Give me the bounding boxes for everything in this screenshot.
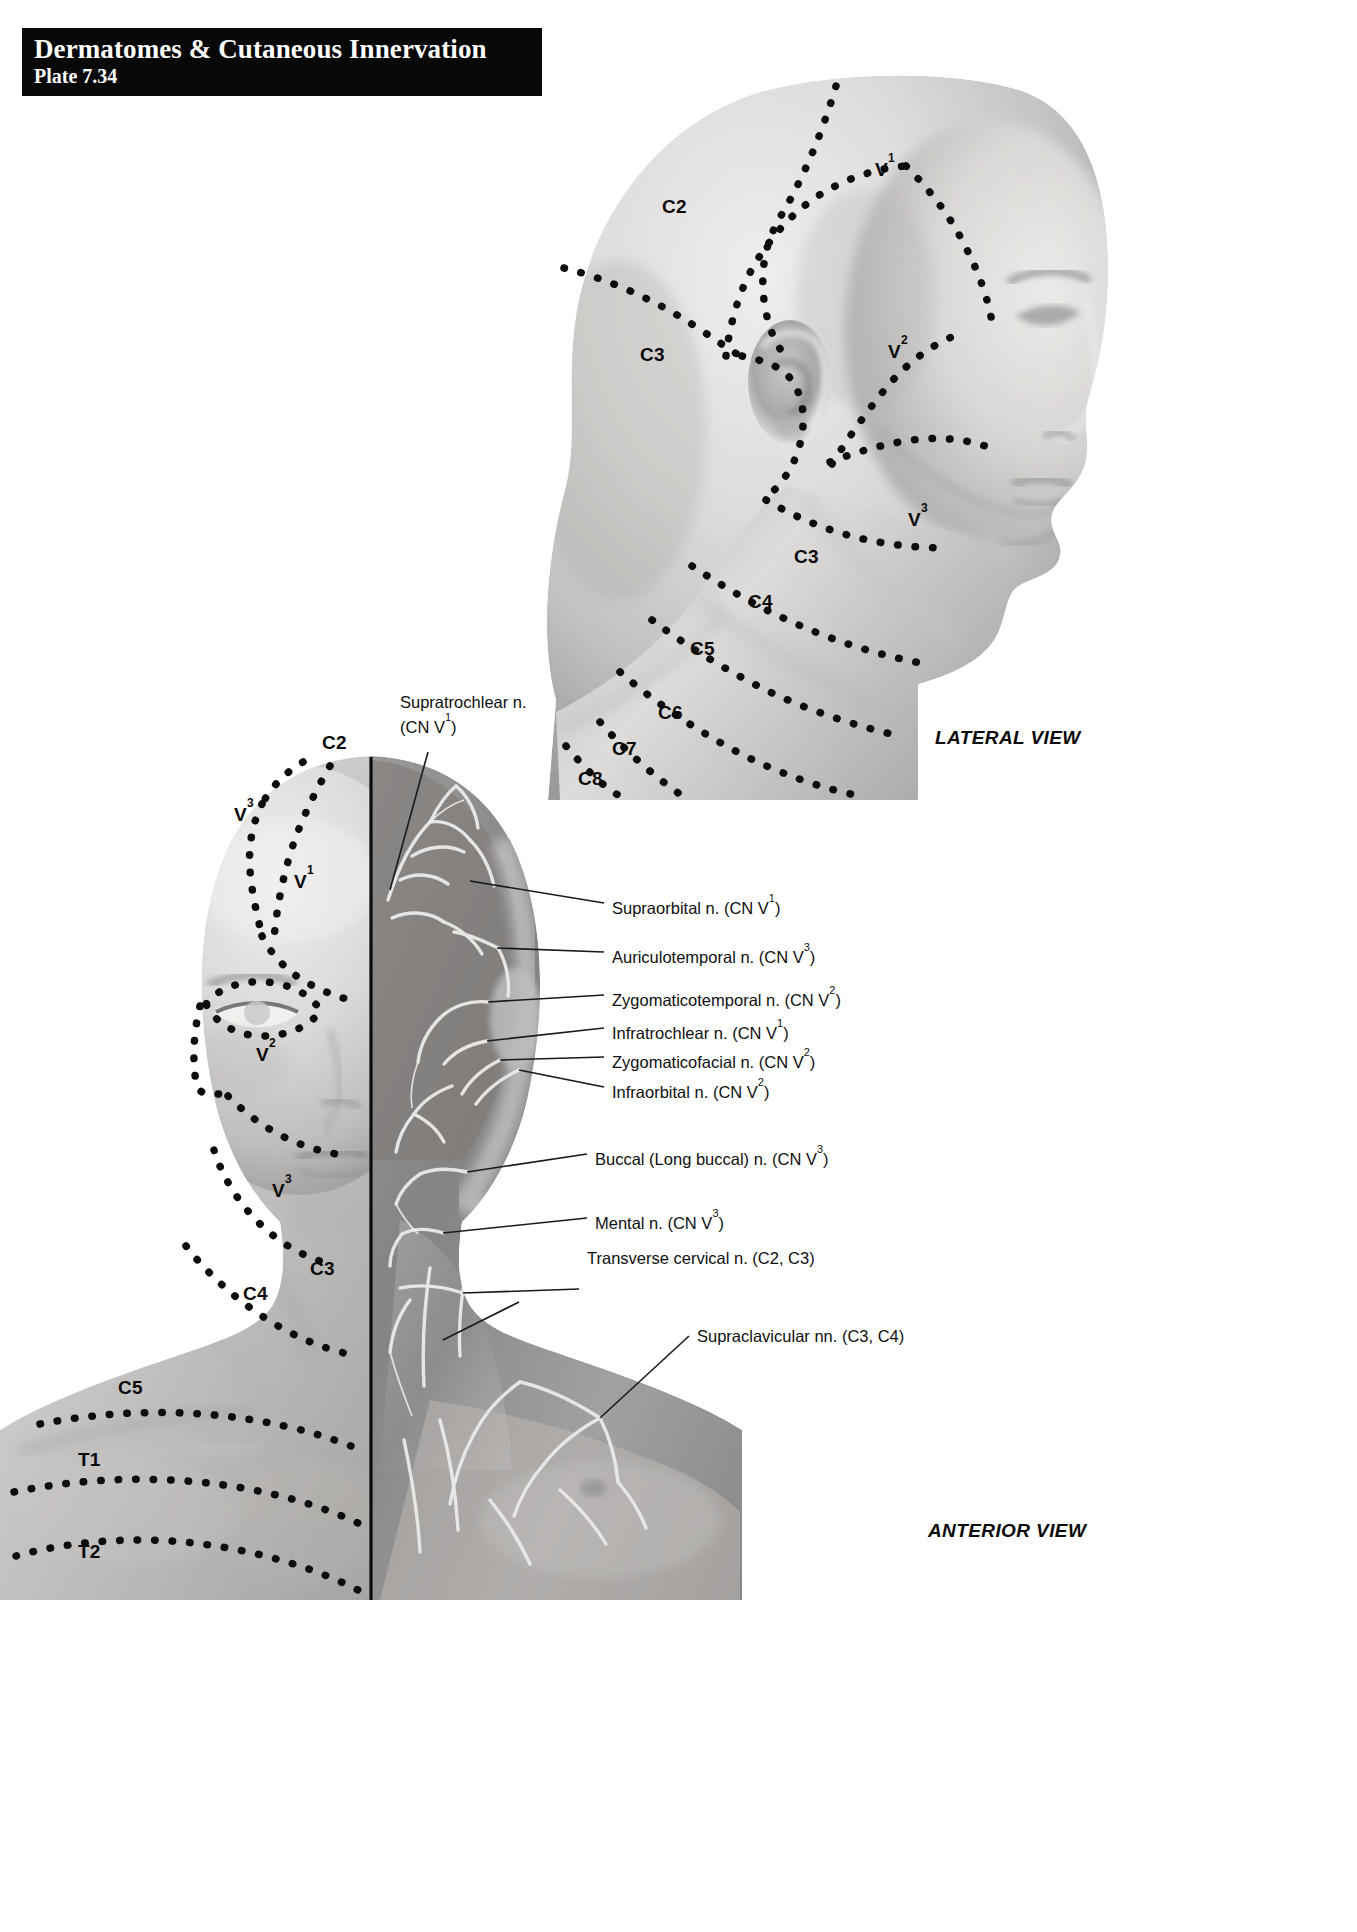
nerve-division-superscript: 2 bbox=[804, 1046, 810, 1058]
anterior-dermatome-label-a-t1: T1 bbox=[78, 1449, 101, 1471]
lateral-dermatome-label-c3b: C3 bbox=[794, 546, 819, 568]
dermatome-code: V bbox=[875, 159, 888, 180]
anterior-dermatome-label-a-v3t: V3 bbox=[234, 803, 254, 826]
dermatome-code: C3 bbox=[310, 1258, 335, 1279]
lateral-dermatome-boundaries bbox=[564, 86, 996, 800]
page-title: Dermatomes & Cutaneous Innervation bbox=[34, 34, 542, 64]
anterior-dermatome-label-a-c3: C3 bbox=[310, 1258, 335, 1280]
dermatome-code: C5 bbox=[690, 638, 715, 659]
leader-buccal bbox=[467, 1154, 587, 1172]
nerve-label-buccal: Buccal (Long buccal) n. (CN V3) bbox=[595, 1144, 829, 1169]
nerve-label-infratrochlear: Infratrochlear n. (CN V1) bbox=[612, 1018, 789, 1043]
dermatome-code: V bbox=[256, 1044, 269, 1065]
dermatome-superscript: 3 bbox=[247, 796, 254, 810]
anterior-dermatome-label-a-v3: V3 bbox=[272, 1179, 292, 1202]
nerve-label-zygomaticofacial: Zygomaticofacial n. (CN V2) bbox=[612, 1047, 815, 1072]
nerve-label-supraclavicular: Supraclavicular nn. (C3, C4) bbox=[697, 1326, 904, 1346]
dermatome-code: C5 bbox=[118, 1377, 143, 1398]
leader-infraorbital bbox=[519, 1070, 604, 1087]
dermatome-superscript: 2 bbox=[269, 1036, 276, 1050]
plate-number: Plate 7.34 bbox=[34, 65, 542, 87]
dermatome-code: C4 bbox=[243, 1283, 268, 1304]
nerve-division-superscript: 3 bbox=[712, 1207, 718, 1219]
dermatome-code: V bbox=[272, 1180, 285, 1201]
nerve-division-superscript: 3 bbox=[817, 1143, 823, 1155]
dermatome-code: V bbox=[908, 509, 921, 530]
lateral-view-illustration bbox=[534, 75, 1135, 800]
lateral-view-caption: LATERAL VIEW bbox=[935, 727, 1081, 749]
dermatome-superscript: 3 bbox=[285, 1172, 292, 1186]
lateral-dermatome-label-c4: C4 bbox=[748, 591, 773, 613]
anterior-view-caption: ANTERIOR VIEW bbox=[928, 1520, 1086, 1542]
nerve-division-superscript: 1 bbox=[769, 892, 775, 904]
nerve-label-mental: Mental n. (CN V3) bbox=[595, 1208, 724, 1233]
anterior-view-right-half bbox=[371, 756, 742, 1600]
dermatome-superscript: 1 bbox=[307, 863, 314, 877]
nerve-label-supraorbital: Supraorbital n. (CN V1) bbox=[612, 893, 780, 918]
leader-transverse-cervical bbox=[463, 1289, 579, 1293]
lateral-dermatome-label-c8: C8 bbox=[578, 768, 603, 790]
anterior-dermatome-label-a-v1: V1 bbox=[294, 870, 314, 893]
anterior-dermatome-label-a-c4: C4 bbox=[243, 1283, 268, 1305]
lateral-dermatome-label-c6: C6 bbox=[658, 702, 683, 724]
ear-lateral bbox=[748, 320, 832, 444]
nerve-label-transverse-cervical: Transverse cervical n. (C2, C3) bbox=[587, 1248, 815, 1268]
leader-zygomaticofacial bbox=[500, 1057, 604, 1060]
lateral-dermatome-label-c3: C3 bbox=[640, 344, 665, 366]
nerve-division-superscript: 1 bbox=[777, 1017, 783, 1029]
dermatome-code: T1 bbox=[78, 1449, 101, 1470]
leader-mental bbox=[443, 1218, 587, 1233]
lateral-dermatome-label-c2: C2 bbox=[662, 196, 687, 218]
dermatome-code: C2 bbox=[322, 732, 347, 753]
leader-auriculotemporal bbox=[497, 948, 604, 952]
nerve-division-superscript: 2 bbox=[829, 984, 835, 996]
lateral-dermatome-label-c5: C5 bbox=[690, 638, 715, 660]
leader-supraclavicular bbox=[600, 1336, 689, 1418]
leader-supraorbital bbox=[470, 881, 604, 903]
nerve-label-auriculotemporal: Auriculotemporal n. (CN V3) bbox=[612, 942, 815, 967]
nerve-label-zygomaticotemporal: Zygomaticotemporal n. (CN V2) bbox=[612, 985, 841, 1010]
anterior-dermatome-label-a-c5: C5 bbox=[118, 1377, 143, 1399]
nerve-division-superscript: 2 bbox=[758, 1076, 764, 1088]
title-banner: Dermatomes & Cutaneous Innervation Plate… bbox=[22, 28, 542, 96]
lateral-dermatome-label-v3: V3 bbox=[908, 508, 928, 531]
dermatome-code: C6 bbox=[658, 702, 683, 723]
dermatome-code: C8 bbox=[578, 768, 603, 789]
anterior-view-left-half bbox=[0, 756, 450, 1600]
anterior-dermatome-label-a-c2: C2 bbox=[322, 732, 347, 754]
dermatome-code: C7 bbox=[612, 738, 637, 759]
dermatome-superscript: 3 bbox=[921, 501, 928, 515]
nerve-label-infraorbital: Infraorbital n. (CN V2) bbox=[612, 1077, 769, 1102]
nerve-label-line2: (CN V1) bbox=[400, 712, 527, 737]
dermatome-code: T2 bbox=[78, 1541, 101, 1562]
leader-zygomaticotemporal bbox=[488, 995, 604, 1002]
nerve-division-superscript: 3 bbox=[804, 941, 810, 953]
dermatome-code: C3 bbox=[794, 546, 819, 567]
dermatome-code: C2 bbox=[662, 196, 687, 217]
dermatome-superscript: 2 bbox=[901, 333, 908, 347]
dermatome-code: V bbox=[294, 871, 307, 892]
nerve-label-line1: Supratrochlear n. bbox=[400, 692, 527, 712]
anterior-dermatome-label-a-v2: V2 bbox=[256, 1043, 276, 1066]
dermatome-code: V bbox=[234, 804, 247, 825]
dermatome-code: C3 bbox=[640, 344, 665, 365]
leader-transverse-cervical-2 bbox=[443, 1302, 519, 1340]
leader-infratrochlear bbox=[487, 1028, 604, 1041]
lateral-dermatome-label-c7: C7 bbox=[612, 738, 637, 760]
nerve-division-superscript: 1 bbox=[445, 711, 451, 723]
leader-supratrochlear bbox=[390, 752, 428, 890]
nerve-label-supratrochlear: Supratrochlear n.(CN V1) bbox=[400, 692, 527, 737]
lateral-dermatome-label-v1: V1 bbox=[875, 158, 895, 181]
plate-page: Dermatomes & Cutaneous Innervation Plate… bbox=[0, 0, 1357, 1932]
anterior-dermatome-label-a-t2: T2 bbox=[78, 1541, 101, 1563]
dermatome-superscript: 1 bbox=[888, 151, 895, 165]
dermatome-code: V bbox=[888, 341, 901, 362]
lateral-dermatome-label-v2: V2 bbox=[888, 340, 908, 363]
dermatome-code: C4 bbox=[748, 591, 773, 612]
